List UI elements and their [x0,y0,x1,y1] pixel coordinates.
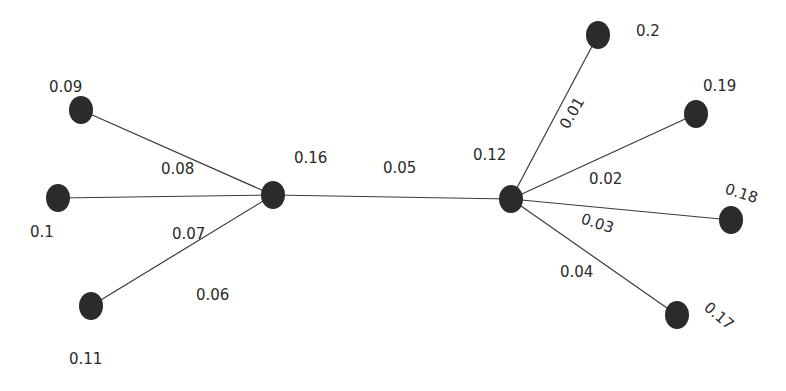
edge-label: 0.07 [172,225,205,243]
node-n8 [719,206,743,234]
node-label: 0.17 [700,298,737,333]
edge-label: 0.04 [560,263,593,281]
node-label: 0.12 [473,146,506,164]
node-n3 [79,292,103,320]
node-n5 [499,185,523,213]
edge-n3-n4 [91,195,273,306]
node-n4 [261,181,285,209]
node-label: 0.19 [703,77,736,95]
node-label: 0.18 [723,180,760,207]
node-n7 [684,100,708,128]
edge-n1-n4 [81,110,273,195]
node-n9 [665,301,689,329]
edge-label: 0.02 [589,170,622,188]
edge-n4-n5 [273,195,511,199]
node-n6 [586,21,610,49]
edge-label: 0.03 [579,210,616,237]
edge-n5-n6 [511,35,598,199]
node-label: 0.09 [49,78,82,96]
edge-label: 0.08 [161,160,194,178]
node-label: 0.16 [294,149,327,167]
node-label: 0.11 [69,350,102,368]
node-label: 0.1 [30,223,54,241]
labels-layer: 0.080.070.050.010.020.030.090.10.110.160… [30,22,760,368]
node-n1 [69,96,93,124]
edge-n5-n8 [511,199,731,220]
tree-diagram: 0.080.070.050.010.020.030.090.10.110.160… [0,0,786,391]
edge-n2-n4 [58,195,273,198]
edge-label: 0.05 [383,159,416,177]
edge-label: 0.06 [196,286,229,304]
edge-label: 0.01 [556,94,588,132]
node-label: 0.2 [636,22,660,40]
node-n2 [46,184,70,212]
